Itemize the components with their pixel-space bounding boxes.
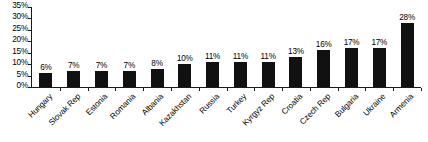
y-axis-tick-label: 5% [2, 71, 28, 79]
bar[interactable] [67, 71, 80, 87]
bar-value-label: 28% [399, 13, 415, 22]
x-axis-tick-mark [143, 88, 144, 91]
y-axis-tick-label: 10% [2, 59, 28, 67]
x-axis-category-label: Kazakhstan [153, 92, 193, 132]
x-axis-tick-mark [115, 88, 116, 91]
x-axis-tick-mark [338, 88, 339, 91]
bar-value-label: 6% [40, 63, 51, 72]
bar-chart: 35%30%25%20%15%10%5%0% 6%7%7%7%8%10%11%1… [0, 0, 428, 142]
bar-value-label: 13% [288, 47, 304, 56]
x-axis-category-label: Romania [97, 92, 137, 132]
y-axis-tick-label: 20% [2, 36, 28, 44]
x-axis-tick-mark [310, 88, 311, 91]
x-axis-tick-mark [227, 88, 228, 91]
x-axis-category-label: Albania [125, 92, 165, 132]
x-axis-tick-mark [393, 88, 394, 91]
y-axis-tick-mark [28, 53, 31, 54]
y-axis-tick-mark [28, 87, 31, 88]
y-axis-tick-mark [28, 18, 31, 19]
x-axis-category-label: Turkey [208, 92, 248, 132]
bar[interactable] [345, 48, 358, 87]
bar-value-label: 17% [371, 38, 387, 47]
bar[interactable] [373, 48, 386, 87]
x-axis-category-label: Russia [181, 92, 221, 132]
bar-group[interactable]: 11% [206, 7, 219, 87]
bar-group[interactable]: 28% [401, 7, 414, 87]
bar-group[interactable]: 11% [262, 7, 275, 87]
x-axis-category-label: Estonia [70, 92, 110, 132]
bar-group[interactable]: 8% [151, 7, 164, 87]
x-axis-tick-mark [88, 88, 89, 91]
bar[interactable] [39, 73, 52, 87]
bar-value-label: 16% [316, 40, 332, 49]
x-axis-category-label: Croatia [264, 92, 304, 132]
bar-group[interactable]: 10% [178, 7, 191, 87]
bar-group[interactable]: 7% [95, 7, 108, 87]
y-axis-tick-mark [28, 30, 31, 31]
bar-group[interactable]: 11% [234, 7, 247, 87]
bar[interactable] [262, 62, 275, 87]
x-axis-tick-mark [365, 88, 366, 91]
y-axis-tick-mark [28, 41, 31, 42]
bar-group[interactable]: 16% [317, 7, 330, 87]
bar[interactable] [401, 23, 414, 87]
y-axis-tick-label: 30% [2, 13, 28, 21]
bar-value-label: 7% [68, 61, 79, 70]
bar-group[interactable]: 7% [67, 7, 80, 87]
x-axis-category-label: Czech Rep [292, 92, 332, 132]
y-axis-tick-label: 25% [2, 25, 28, 33]
bar-value-label: 17% [344, 38, 360, 47]
bar[interactable] [317, 50, 330, 87]
x-axis-tick-mark [421, 88, 422, 91]
plot-area: 6%7%7%7%8%10%11%11%11%13%16%17%17%28% [32, 7, 421, 87]
x-axis-tick-mark [282, 88, 283, 91]
bar[interactable] [178, 64, 191, 87]
y-axis-tick-mark [28, 7, 31, 8]
x-axis-tick-mark [171, 88, 172, 91]
x-axis-category-label: Hungary [14, 92, 54, 132]
y-axis-tick-label: 35% [2, 2, 28, 10]
bar-group[interactable]: 13% [289, 7, 302, 87]
bar-value-label: 11% [205, 52, 220, 61]
bar-value-label: 11% [233, 52, 248, 61]
bar[interactable] [289, 57, 302, 87]
x-axis-tick-mark [199, 88, 200, 91]
bar[interactable] [123, 71, 136, 87]
x-axis-category-label: Armenia [375, 92, 415, 132]
y-axis-tick-mark [28, 64, 31, 65]
bar[interactable] [234, 62, 247, 87]
bar-value-label: 8% [151, 59, 162, 68]
bar[interactable] [151, 69, 164, 87]
x-axis-category-label: Slovak Rep [42, 92, 82, 132]
bar[interactable] [206, 62, 219, 87]
bar-group[interactable]: 7% [123, 7, 136, 87]
x-axis-tick-mark [254, 88, 255, 91]
y-axis-tick-mark [28, 76, 31, 77]
x-axis-tick-mark [60, 88, 61, 91]
y-axis-tick-label: 15% [2, 48, 28, 56]
bar-group[interactable]: 6% [39, 7, 52, 87]
bar[interactable] [95, 71, 108, 87]
x-axis-category-label: Bulgaria [320, 92, 360, 132]
y-axis-tick-labels: 35%30%25%20%15%10%5%0% [2, 6, 28, 88]
bar-group[interactable]: 17% [373, 7, 386, 87]
x-axis-category-label: Kyrgyz Rep [236, 92, 276, 132]
x-axis-category-label: Ukraine [347, 92, 387, 132]
y-axis-tick-label: 0% [2, 82, 28, 90]
bar-value-label: 7% [124, 61, 135, 70]
bar-value-label: 11% [261, 52, 276, 61]
bar-value-label: 10% [177, 54, 193, 63]
bar-group[interactable]: 17% [345, 7, 358, 87]
bar-value-label: 7% [96, 61, 107, 70]
